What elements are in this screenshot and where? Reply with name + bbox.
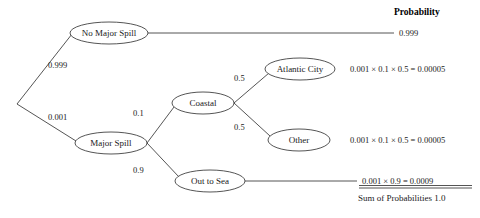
branch-line-root-to-major-spill <box>17 104 76 141</box>
node-label-major-spill: Major Spill <box>90 138 132 148</box>
node-label-out-to-sea: Out to Sea <box>191 176 229 186</box>
node-label-other: Other <box>289 135 310 145</box>
sum-of-probabilities-label: Sum of Probabilities 1.0 <box>358 193 446 203</box>
outcome-value-atlantic-city: 0.001 × 0.1 × 0.5 = 0.00005 <box>350 64 445 74</box>
branch-line-major-spill-to-out-to-sea <box>147 143 179 177</box>
node-label-coastal: Coastal <box>190 98 217 108</box>
edge-label-major-spill-probability: 0.001 <box>48 112 67 122</box>
probability-column-header: Probability <box>394 7 440 17</box>
outcome-value-other: 0.001 × 0.1 × 0.5 = 0.00005 <box>350 135 445 145</box>
node-label-atlantic-city: Atlantic City <box>277 64 324 74</box>
edge-label-coastal-probability: 0.1 <box>133 108 144 118</box>
branch-line-major-spill-to-coastal <box>147 107 174 143</box>
node-label-no-major-spill: No Major Spill <box>82 28 137 38</box>
outcome-value-no-major-spill: 0.999 <box>399 28 418 38</box>
edge-label-other-probability: 0.5 <box>234 122 245 132</box>
probability-tree-diagram: No Major Spill Major Spill Coastal Out t… <box>0 0 480 218</box>
edge-label-atlantic-city-probability: 0.5 <box>234 73 245 83</box>
outcome-value-out-to-sea: 0.001 × 0.9 = 0.0009 <box>362 176 433 186</box>
edge-label-out-to-sea-probability: 0.9 <box>133 165 144 175</box>
edge-label-no-major-spill-probability: 0.999 <box>48 60 67 70</box>
